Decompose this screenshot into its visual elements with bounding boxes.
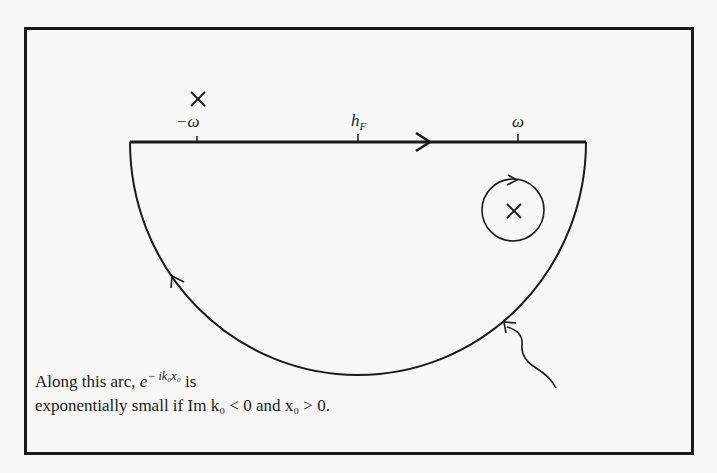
caption-line-1-suffix: is bbox=[181, 372, 197, 391]
semicircle-arc bbox=[130, 142, 586, 375]
pole-mark-circle-icon bbox=[507, 204, 521, 218]
label-h-f-main: h bbox=[351, 111, 360, 130]
wavy-pointer-line bbox=[507, 327, 556, 388]
caption-exp-sup: − ik₀x₀ bbox=[147, 369, 180, 383]
label-omega: ω bbox=[512, 112, 524, 132]
caption-line-2: exponentially small if Im k₀ < 0 and x₀ … bbox=[35, 396, 330, 416]
caption-line-1: Along this arc, e− ik₀x₀ is bbox=[35, 369, 196, 392]
pole-mark-top-icon bbox=[191, 92, 205, 106]
caption-line-1-prefix: Along this arc, bbox=[35, 372, 140, 391]
label-neg-omega: −ω bbox=[176, 112, 199, 132]
label-h-f-sub: F bbox=[360, 120, 367, 132]
label-h-f: hF bbox=[351, 111, 366, 132]
